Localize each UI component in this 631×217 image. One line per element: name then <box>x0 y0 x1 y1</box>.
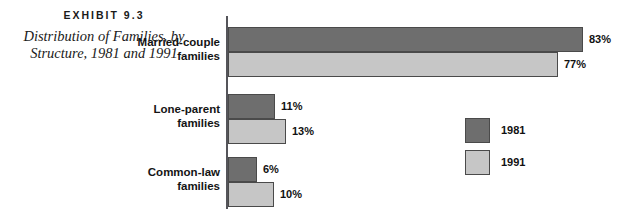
bar-1981-lone-parent <box>228 94 275 119</box>
bar-1991-common-law <box>228 182 274 207</box>
bar-value-1981-lone-parent: 11% <box>281 94 302 119</box>
legend-swatch-1991-icon <box>465 150 490 175</box>
exhibit-number-label: EXHIBIT 9.3 <box>0 9 208 21</box>
bar-1991-married-couple <box>228 52 558 77</box>
bar-value-1991-married-couple: 77% <box>564 52 586 77</box>
category-label-line-2: families <box>177 117 220 129</box>
bar-value-1981-common-law: 6% <box>263 157 279 182</box>
exhibit-figure: EXHIBIT 9.3 Distribution of Families, by… <box>0 0 631 217</box>
category-label-line-1: Common-law <box>148 166 220 178</box>
legend-label-1981: 1981 <box>501 118 525 143</box>
bar-value-1981-married-couple: 83% <box>589 27 611 52</box>
category-label-lone-parent: Lone-parent families <box>100 103 220 130</box>
chart-plot-area: Married-couple families 83% 77% Lone-par… <box>214 12 631 210</box>
bar-1991-lone-parent <box>228 119 286 144</box>
bar-value-1991-common-law: 10% <box>280 182 302 207</box>
category-label-line-1: Married-couple <box>138 36 220 48</box>
bar-value-1991-lone-parent: 13% <box>292 119 314 144</box>
category-label-common-law: Common-law families <box>100 166 220 193</box>
bar-1981-married-couple <box>228 27 583 52</box>
bar-1981-common-law <box>228 157 257 182</box>
category-label-line-2: families <box>177 50 220 62</box>
category-label-line-1: Lone-parent <box>154 103 220 115</box>
category-label-line-2: families <box>177 180 220 192</box>
category-label-married-couple: Married-couple families <box>100 36 220 63</box>
legend-label-1991: 1991 <box>501 150 525 175</box>
legend-swatch-1981-icon <box>465 118 490 143</box>
